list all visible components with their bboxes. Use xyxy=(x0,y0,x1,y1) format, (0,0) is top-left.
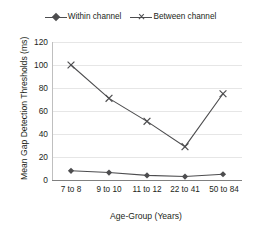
data-point-marker xyxy=(144,118,151,125)
data-point-marker xyxy=(106,95,113,102)
data-point-marker xyxy=(68,62,75,69)
data-point-marker xyxy=(182,173,188,179)
data-point-marker xyxy=(144,172,150,178)
data-point-marker xyxy=(182,143,189,150)
data-point-marker xyxy=(220,171,226,177)
markers-between-channel xyxy=(68,62,227,150)
series-layer xyxy=(0,0,261,236)
data-point-marker xyxy=(68,168,74,174)
markers-within-channel xyxy=(68,168,226,180)
gap-detection-threshold-chart: Within channel Between channel Mean Gap … xyxy=(0,0,261,236)
data-point-marker xyxy=(220,90,227,97)
data-point-marker xyxy=(106,169,112,175)
line-between-channel xyxy=(71,65,223,147)
